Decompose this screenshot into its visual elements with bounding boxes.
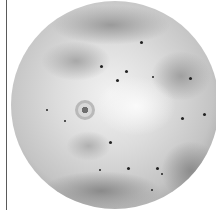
hotspot <box>161 173 163 175</box>
hotspot <box>203 113 206 116</box>
hotspot <box>152 76 154 78</box>
surface-patch <box>41 41 111 81</box>
surface-patch <box>41 171 161 209</box>
hotspot <box>64 120 66 122</box>
hotspot <box>140 41 143 44</box>
hotspot <box>116 79 119 82</box>
surface-bright <box>96 76 176 136</box>
hotspot <box>151 189 153 191</box>
hotspot <box>189 77 192 80</box>
io-moon-disk <box>11 1 216 209</box>
hotspot <box>109 141 112 144</box>
hotspot <box>181 117 184 120</box>
hotspot <box>46 109 48 111</box>
hotspot <box>125 70 128 73</box>
hotspot <box>100 65 103 68</box>
surface-patch <box>161 141 216 201</box>
hotspot <box>127 167 130 170</box>
surface-patch <box>51 5 171 45</box>
hotspot <box>99 169 101 171</box>
surface-patch <box>66 131 111 161</box>
hotspot <box>156 167 159 170</box>
vertical-border-line <box>6 0 7 210</box>
plume-ring <box>75 100 95 120</box>
